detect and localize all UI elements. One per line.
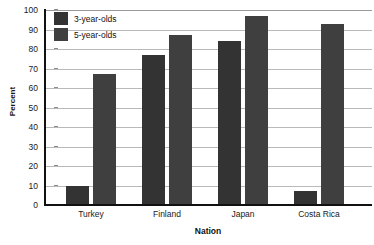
x-tick-label: Japan (231, 209, 254, 219)
bar (294, 191, 317, 205)
y-tick-label: 90 (14, 25, 38, 35)
legend-label: 3-year-olds (74, 14, 117, 24)
y-axis-line (44, 9, 46, 205)
y-tick-label: 70 (14, 64, 38, 74)
legend-item-5-year-olds: 5-year-olds (54, 28, 117, 41)
x-axis-ticks: TurkeyFinlandJapanCosta Rica (44, 209, 372, 223)
chart-legend: 3-year-olds 5-year-olds (54, 12, 117, 41)
x-axis-line (44, 204, 372, 206)
y-tick-label: 60 (14, 83, 38, 93)
bar (142, 55, 165, 205)
y-tick-label: 0 (14, 200, 38, 210)
y-tick-label: 100 (14, 5, 38, 15)
legend-swatch-icon (54, 28, 68, 41)
y-tick-label: 40 (14, 122, 38, 132)
legend-item-3-year-olds: 3-year-olds (54, 12, 117, 25)
y-axis-ticks: 0102030405060708090100 (14, 10, 38, 205)
bar (218, 41, 241, 205)
bar-chart: Percent 0102030405060708090100 3-year-ol… (0, 0, 374, 245)
bar (245, 16, 268, 205)
x-axis-title: Nation (44, 226, 372, 236)
bar (66, 186, 89, 206)
legend-swatch-icon (54, 12, 68, 25)
bar (169, 35, 192, 205)
y-tick-label: 30 (14, 142, 38, 152)
bar (93, 74, 116, 205)
x-tick-label: Costa Rica (298, 209, 340, 219)
legend-label: 5-year-olds (74, 30, 117, 40)
y-tick-label: 50 (14, 103, 38, 113)
y-tick-label: 80 (14, 44, 38, 54)
x-tick-label: Finland (153, 209, 181, 219)
x-tick-label: Turkey (78, 209, 104, 219)
y-tick-label: 10 (14, 181, 38, 191)
y-tick-label: 20 (14, 161, 38, 171)
bar (321, 24, 344, 205)
